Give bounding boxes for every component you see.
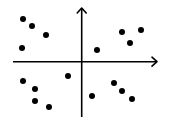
- data-point: [32, 86, 38, 92]
- scatter-chart: [0, 0, 169, 126]
- data-point: [111, 80, 117, 86]
- data-point: [138, 27, 144, 33]
- data-point: [20, 16, 26, 22]
- data-point: [46, 104, 52, 110]
- data-point: [65, 73, 71, 79]
- data-point: [94, 47, 100, 53]
- data-point: [119, 29, 125, 35]
- data-point: [20, 78, 26, 84]
- data-point: [32, 98, 38, 104]
- data-point: [19, 45, 25, 51]
- data-point: [129, 96, 135, 102]
- data-point: [43, 32, 49, 38]
- data-point: [29, 23, 35, 29]
- data-point: [127, 40, 133, 46]
- data-point: [119, 88, 125, 94]
- data-point: [89, 93, 95, 99]
